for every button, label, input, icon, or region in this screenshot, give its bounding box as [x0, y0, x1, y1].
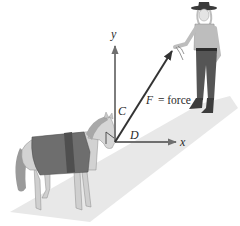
force-diagram: y x C D F = force	[0, 0, 240, 226]
force-text: = force	[158, 94, 191, 106]
x-axis-label: x	[179, 135, 186, 149]
component-c-label: C	[118, 104, 127, 118]
force-label: F = force	[145, 94, 191, 106]
left-arm	[175, 28, 196, 47]
pony-blanket	[32, 132, 90, 175]
force-symbol: F	[145, 94, 154, 106]
head	[199, 9, 209, 21]
component-d-label: D	[129, 128, 139, 142]
rope	[176, 46, 184, 60]
belt	[196, 48, 217, 51]
y-axis-label: y	[110, 27, 117, 41]
pants	[196, 51, 217, 100]
pony-ears	[104, 112, 113, 119]
hat-crown	[198, 2, 210, 8]
